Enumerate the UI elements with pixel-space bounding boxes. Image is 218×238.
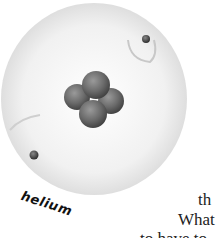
electron-cloud — [1, 3, 187, 195]
electron-icon — [142, 35, 150, 43]
body-text-line: th — [198, 190, 211, 210]
electron-icon — [30, 151, 39, 160]
body-text-line: What — [178, 210, 215, 230]
body-text-line: to have to — [140, 229, 207, 238]
